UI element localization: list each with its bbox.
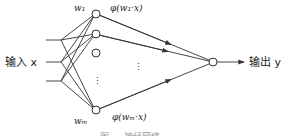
hidden-node-m: [92, 106, 100, 114]
neural-network-diagram: 输入 x 输出 y w₁ φ(w₁·x) wₘ φ(wₘ·x) ⋮ ⋮ 图 … …: [0, 0, 284, 136]
weight-label-m: wₘ: [74, 116, 87, 126]
output-connections: [99, 15, 244, 109]
ellipsis-hidden: ⋮: [93, 76, 102, 86]
ellipsis-output: ⋮: [134, 62, 143, 72]
activation-label-m: φ(wₘ·x): [112, 112, 147, 122]
input-lines: [46, 14, 95, 110]
input-label: 输入 x: [5, 55, 37, 69]
activation-label-1: φ(w₁·x): [110, 3, 143, 13]
hidden-node-2: [92, 30, 100, 38]
hidden-node-3: [92, 49, 100, 57]
hidden-nodes: [92, 10, 100, 114]
weight-label-1: w₁: [74, 3, 85, 13]
hidden-node-1: [92, 10, 100, 18]
output-label: 输出 y: [249, 55, 281, 69]
caption: 图 … 神经网络: [100, 131, 160, 136]
output-node: [209, 58, 217, 66]
